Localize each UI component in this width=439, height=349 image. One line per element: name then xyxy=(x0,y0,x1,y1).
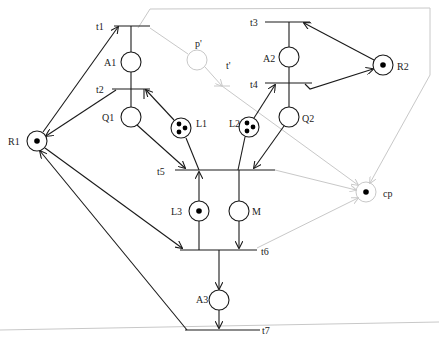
place-A3[interactable] xyxy=(209,290,229,310)
label-t6: t6 xyxy=(261,246,269,257)
place-Q1[interactable] xyxy=(121,107,141,127)
place-L1[interactable] xyxy=(171,118,191,138)
label-cp: cp xyxy=(383,188,392,199)
label-t4: t4 xyxy=(250,79,258,90)
token-icon xyxy=(380,62,386,68)
label-L2: L2 xyxy=(229,118,240,129)
arc-L1-t5 xyxy=(186,138,199,170)
label-A1: A1 xyxy=(104,57,116,68)
place-p-prime xyxy=(187,50,207,70)
token-icon xyxy=(183,126,188,131)
label-t-prime: t' xyxy=(226,60,231,71)
arc-R2-t3 xyxy=(304,23,374,60)
arc-L1-t2 xyxy=(146,90,174,120)
label-Q2: Q2 xyxy=(302,113,314,124)
arc-Q2-t5 xyxy=(254,126,284,168)
token-icon xyxy=(363,189,369,195)
place-M[interactable] xyxy=(229,201,249,221)
faint-arc-t5-cp xyxy=(275,170,356,190)
label-R2: R2 xyxy=(397,61,409,72)
faint-arc-pprime-tprime xyxy=(205,67,222,86)
token-icon xyxy=(177,130,182,135)
faint-arc-t6-cp xyxy=(257,198,358,248)
faint-arc-t1-pprime xyxy=(150,28,188,54)
tokens xyxy=(34,62,386,214)
token-icon xyxy=(245,121,250,126)
label-R1: R1 xyxy=(8,136,20,147)
token-icon xyxy=(245,129,250,134)
arc-t4-R2 xyxy=(305,69,373,89)
arc-t7-R1 xyxy=(40,151,187,330)
faint-arc-outline xyxy=(138,8,430,183)
label-t3: t3 xyxy=(250,17,258,28)
token-icon xyxy=(34,138,40,144)
token-icon xyxy=(196,208,202,214)
token-icon xyxy=(177,122,182,127)
main-net xyxy=(27,22,393,330)
label-A2: A2 xyxy=(263,53,275,64)
label-t5: t5 xyxy=(157,166,165,177)
label-Q1: Q1 xyxy=(102,112,114,123)
label-t7: t7 xyxy=(262,325,270,336)
place-Q2[interactable] xyxy=(279,107,299,127)
label-p-prime: p' xyxy=(195,38,202,49)
place-A2[interactable] xyxy=(279,47,299,67)
label-L1: L1 xyxy=(196,118,207,129)
place-L2[interactable] xyxy=(239,117,259,137)
token-icon xyxy=(251,125,256,130)
petri-net-diagram: t1 t2 t3 t4 t5 t6 t7 A1 Q1 L1 R1 A2 R2 L… xyxy=(0,0,439,349)
labels: t1 t2 t3 t4 t5 t6 t7 A1 Q1 L1 R1 A2 R2 L… xyxy=(8,17,409,336)
label-t1: t1 xyxy=(96,21,104,32)
place-A1[interactable] xyxy=(121,52,141,72)
label-A3: A3 xyxy=(196,294,208,305)
arc-R1-t6 xyxy=(45,148,182,248)
label-M: M xyxy=(252,206,261,217)
label-t2: t2 xyxy=(96,84,104,95)
arc-L2-t5 xyxy=(238,137,245,170)
label-L3: L3 xyxy=(171,206,182,217)
